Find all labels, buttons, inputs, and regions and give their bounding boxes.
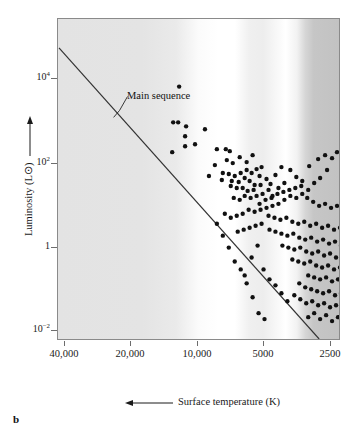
star-data-point [310, 299, 314, 303]
star-data-point [275, 192, 279, 196]
star-data-point [302, 220, 306, 224]
star-data-point [220, 178, 224, 182]
star-data-point [282, 198, 286, 202]
star-data-point [254, 194, 258, 198]
star-data-point [294, 196, 298, 200]
y-tick-exponent: 4 [47, 70, 50, 77]
star-data-point [261, 267, 265, 271]
star-data-point [266, 188, 270, 192]
star-data-point [251, 188, 255, 192]
star-data-point [193, 142, 197, 146]
star-data-point [296, 259, 300, 263]
star-data-point [233, 259, 237, 263]
star-data-point [279, 165, 283, 169]
star-data-point [303, 285, 307, 289]
star-data-point [245, 189, 249, 193]
star-data-point [325, 168, 329, 172]
star-data-point [273, 173, 277, 177]
star-data-point [322, 253, 326, 257]
star-data-point [239, 267, 243, 271]
star-data-point [305, 196, 309, 200]
y-axis-arrow-icon [26, 116, 34, 156]
star-data-point [237, 180, 241, 184]
star-data-point [297, 281, 301, 285]
y-axis-tick-label: 102 [37, 157, 50, 167]
star-data-point [333, 239, 337, 243]
x-axis-title-text: Surface temperature (K) [178, 396, 280, 407]
x-axis-tick-mark [263, 341, 264, 346]
star-data-point [304, 301, 308, 305]
x-axis-title: Surface temperature (K) [125, 396, 280, 407]
main-sequence-annotation: Main sequence [127, 90, 190, 101]
star-data-point [273, 283, 277, 287]
star-data-point [170, 150, 174, 154]
star-data-point [235, 214, 239, 218]
star-data-point [308, 224, 312, 228]
star-data-point [288, 168, 292, 172]
star-data-point [323, 202, 327, 206]
star-data-point [264, 177, 268, 181]
star-data-point [304, 249, 308, 253]
star-data-point [244, 168, 248, 172]
star-data-point [312, 275, 316, 279]
star-data-point [307, 164, 311, 168]
star-data-point [259, 222, 263, 226]
star-data-point [323, 153, 327, 157]
star-data-point [230, 179, 234, 183]
star-data-point [279, 291, 283, 295]
star-data-point [330, 279, 334, 283]
x-axis-tick-mark [130, 341, 131, 346]
star-data-point [221, 171, 225, 175]
star-data-point [224, 147, 228, 151]
star-data-point [316, 157, 320, 161]
star-data-point [324, 275, 328, 279]
plot-area [57, 18, 340, 340]
star-data-point [297, 235, 301, 239]
star-data-point [338, 265, 339, 269]
star-data-point [184, 124, 188, 128]
star-data-point [281, 190, 285, 194]
star-data-point [300, 192, 304, 196]
star-data-point [288, 194, 292, 198]
star-data-point [312, 181, 316, 185]
star-data-point [249, 171, 253, 175]
y-tick-mantissa: 10 [37, 156, 47, 167]
y-tick-mantissa: 10 [33, 323, 43, 334]
star-data-point [303, 237, 307, 241]
star-data-point [320, 265, 324, 269]
x-axis-tick-mark [64, 341, 65, 346]
star-data-point [318, 176, 322, 180]
star-data-point [321, 237, 325, 241]
star-data-point [276, 202, 280, 206]
star-data-point [280, 243, 284, 247]
y-tick-mantissa: 10 [37, 71, 47, 82]
star-data-point [177, 84, 181, 88]
star-data-point [231, 161, 235, 165]
star-data-point [326, 263, 330, 267]
star-data-point [287, 188, 291, 192]
star-data-point [223, 212, 227, 216]
star-data-point [244, 281, 248, 285]
star-data-point [318, 317, 322, 321]
star-data-point [252, 210, 256, 214]
star-data-point [320, 226, 324, 230]
x-axis-tick-mark [330, 341, 331, 346]
star-data-point [270, 204, 274, 208]
star-data-point [246, 208, 250, 212]
star-data-point [250, 153, 254, 157]
star-data-point [333, 293, 337, 297]
star-data-point [298, 245, 302, 249]
star-data-point [242, 273, 246, 277]
star-data-point [285, 299, 289, 303]
star-data-point [290, 257, 294, 261]
star-data-point [242, 194, 246, 198]
star-data-point [324, 313, 328, 317]
x-axis-arrow-icon [125, 399, 173, 407]
star-data-point [268, 182, 272, 186]
y-axis-tick-mark [51, 247, 57, 248]
star-data-point [322, 301, 326, 305]
y-axis-title-text: Luminosity (L⊙) [23, 163, 34, 236]
star-data-point [327, 289, 331, 293]
star-data-point [308, 259, 312, 263]
star-data-point [328, 251, 332, 255]
